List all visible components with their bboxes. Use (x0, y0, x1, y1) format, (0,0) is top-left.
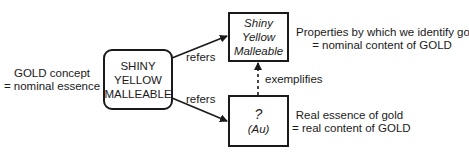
real-label-line2: = real content of GOLD (292, 122, 407, 135)
nominal-label-line1: Properties by which we identify gold (296, 26, 468, 39)
refers-label-top: refers (186, 51, 215, 64)
diagram-canvas: GOLD concept = nominal essence SHINY YEL… (0, 0, 469, 161)
concept-label-line1: GOLD concept (0, 67, 104, 80)
concept-label-line2: = nominal essence (0, 80, 104, 93)
nominal-box-line3: Malleable (234, 44, 283, 58)
nominal-label-line2: = nominal content of GOLD (296, 39, 468, 52)
nominal-box-line2: Yellow (242, 30, 275, 44)
real-label-line1: Real essence of gold (292, 109, 407, 122)
refers-label-bottom: refers (186, 93, 215, 106)
nominal-label: Properties by which we identify gold = n… (296, 26, 468, 52)
concept-box-line1: SHINY (120, 59, 155, 73)
real-box-line2: (Au) (248, 122, 270, 136)
nominal-box: Shiny Yellow Malleable (228, 12, 289, 62)
concept-box: SHINY YELLOW MALLEABLE (103, 49, 173, 110)
real-box: ? (Au) (228, 95, 289, 147)
concept-label: GOLD concept = nominal essence (0, 67, 104, 93)
exemplifies-label: exemplifies (265, 73, 323, 86)
concept-box-line2: YELLOW (114, 73, 162, 87)
real-box-line1: ? (255, 106, 263, 122)
real-label: Real essence of gold = real content of G… (292, 109, 407, 135)
concept-box-line3: MALLEABLE (104, 87, 171, 101)
nominal-box-line1: Shiny (244, 16, 273, 30)
